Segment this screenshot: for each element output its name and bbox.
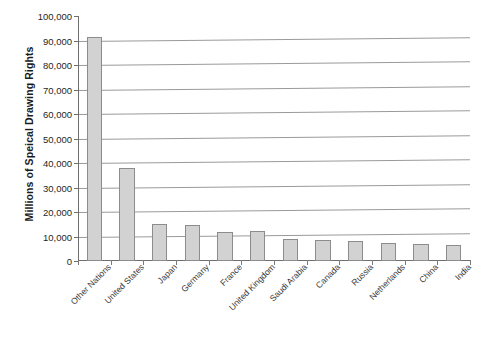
y-axis-tick-mark: [74, 163, 79, 164]
bar: [446, 245, 461, 261]
gridline: [78, 37, 470, 42]
gridline: [78, 184, 470, 189]
bar: [381, 243, 396, 261]
y-axis-tick-label: 20,000: [16, 207, 72, 218]
bar: [87, 37, 102, 261]
y-axis-tick-mark: [74, 65, 79, 66]
gridline: [78, 61, 470, 66]
gridline: [78, 233, 470, 238]
bar-chart-figure: Millions of Speical Drawing Rights 100,0…: [0, 0, 481, 337]
y-axis-tick-mark: [74, 41, 79, 42]
bar: [250, 231, 265, 261]
y-axis-tick-label: 100,000: [16, 11, 72, 22]
y-axis-tick-label: 0: [16, 256, 72, 267]
x-axis-category-label: Other Nations: [0, 262, 113, 337]
y-axis-tick-label: 40,000: [16, 158, 72, 169]
y-axis-tick-mark: [74, 188, 79, 189]
gridline: [78, 110, 470, 115]
bar: [315, 240, 330, 261]
y-axis-tick-label: 60,000: [16, 109, 72, 120]
x-axis-category-labels: Other NationsUnited StatesJapanGermanyFr…: [78, 262, 481, 337]
bar: [152, 224, 167, 261]
bar: [119, 168, 134, 261]
y-axis-tick-labels: 100,00090,00080,00070,00060,00050,00040,…: [16, 16, 72, 261]
gridline: [78, 86, 470, 91]
gridline: [78, 135, 470, 140]
y-axis-tick-mark: [74, 90, 79, 91]
y-axis-tick-mark: [74, 16, 79, 17]
bar: [185, 225, 200, 261]
gridline: [78, 208, 470, 213]
bar: [283, 239, 298, 261]
y-axis-tick-label: 80,000: [16, 60, 72, 71]
y-axis-tick-label: 50,000: [16, 133, 72, 144]
gridline: [78, 159, 470, 164]
y-axis-tick-mark: [74, 212, 79, 213]
plot-area: [78, 16, 470, 261]
y-axis-tick-mark: [74, 114, 79, 115]
bar: [413, 244, 428, 261]
bar: [217, 232, 232, 261]
y-axis-tick-label: 10,000: [16, 231, 72, 242]
y-axis-tick-mark: [74, 237, 79, 238]
bar: [348, 241, 363, 261]
y-axis-tick-mark: [74, 139, 79, 140]
y-axis-tick-label: 30,000: [16, 182, 72, 193]
y-axis-tick-label: 90,000: [16, 35, 72, 46]
y-axis-tick-label: 70,000: [16, 84, 72, 95]
